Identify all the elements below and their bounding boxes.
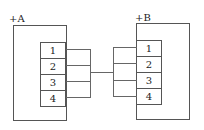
wire-b4	[113, 96, 137, 97]
device-a-terminal-4: 4	[40, 90, 66, 107]
device-a-terminal-3: 3	[40, 74, 66, 91]
wire-b2	[113, 63, 137, 64]
wire-a2	[66, 65, 91, 66]
device-b-terminal-1: 1	[136, 40, 162, 57]
device-b-terminal-4: 4	[136, 88, 162, 105]
wire-a1	[66, 49, 91, 50]
device-a-terminal-2: 2	[40, 58, 66, 75]
device-b-terminal-2: 2	[136, 56, 162, 73]
device-a-terminal-1: 1	[40, 42, 66, 59]
wire-b1	[113, 47, 137, 48]
bus-a	[90, 49, 91, 98]
connecting-wire	[90, 72, 114, 73]
bus-b	[113, 47, 114, 97]
wire-b3	[113, 80, 137, 81]
device-b-label: +B	[135, 13, 151, 23]
device-b-terminal-3: 3	[136, 72, 162, 89]
device-a-label: +A	[9, 14, 25, 24]
wire-a4	[66, 97, 91, 98]
wire-a3	[66, 81, 91, 82]
